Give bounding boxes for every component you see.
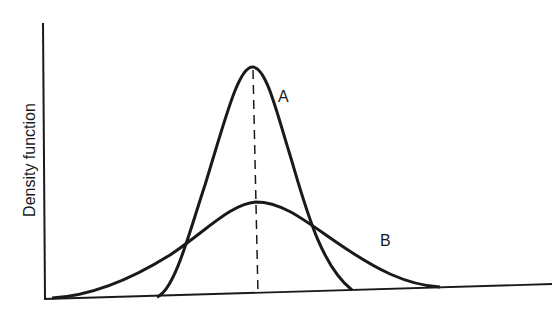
- curve-b: [52, 202, 440, 298]
- curve-b-label: B: [380, 232, 391, 250]
- mean-dashed-line: [253, 70, 258, 294]
- curve-a: [157, 67, 352, 297]
- x-axis: [44, 284, 552, 299]
- y-axis-label: Density function: [21, 103, 39, 217]
- density-chart: [0, 0, 558, 315]
- curve-a-label: A: [278, 88, 289, 106]
- y-axis: [43, 23, 45, 299]
